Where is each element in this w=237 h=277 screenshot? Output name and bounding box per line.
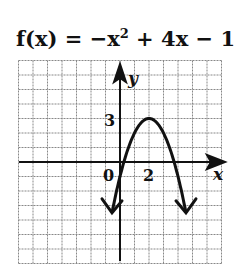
plot-area: y x 0 2 3	[0, 0, 237, 277]
y-tick-label: 3	[104, 111, 115, 130]
axes	[19, 64, 225, 261]
x-axis-label: x	[212, 164, 224, 184]
origin-label: 0	[103, 166, 114, 185]
x-tick-label: 2	[143, 166, 154, 185]
y-axis-label: y	[127, 68, 139, 88]
